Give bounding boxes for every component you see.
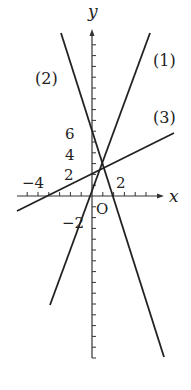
line-2-label: (2): [35, 69, 58, 88]
y-tick-6-label: 6: [65, 125, 75, 143]
origin-label: O: [96, 200, 108, 218]
x-tick-neg4-label: −4: [22, 174, 44, 192]
line-3-label: (3): [153, 108, 176, 127]
y-tick-neg2-label: −2: [62, 214, 84, 232]
line-graph: y x (1) (2) (3) 6 4 2 −4 2 O −2: [0, 0, 191, 390]
y-tick-2-label: 2: [64, 166, 74, 184]
x-axis-label: x: [169, 186, 179, 206]
y-axis-arrow-icon: [90, 29, 95, 36]
line-1-label: (1): [153, 51, 176, 70]
x-tick-2-label: 2: [116, 174, 126, 192]
line-2: [61, 33, 164, 357]
y-axis-label: y: [87, 1, 98, 21]
y-tick-4-label: 4: [65, 146, 75, 164]
x-axis-arrow-icon: [157, 194, 164, 199]
